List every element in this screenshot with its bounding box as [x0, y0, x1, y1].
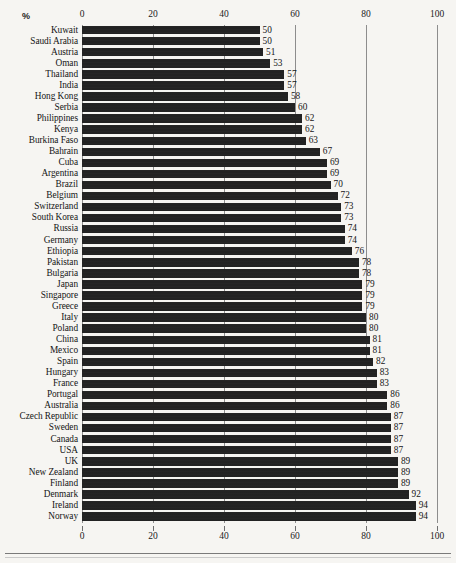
bar-category-label: New Zealand — [29, 468, 78, 477]
axis-tick-label: 20 — [148, 9, 158, 19]
bar-value-label: 78 — [362, 269, 371, 278]
bar-category-label: Thailand — [45, 70, 78, 79]
gridline-100 — [437, 25, 438, 523]
bar-row: Poland80 — [82, 323, 437, 334]
bar-row: Switzerland73 — [82, 202, 437, 213]
bar-row: Czech Republic87 — [82, 412, 437, 423]
bar-row: Russia74 — [82, 224, 437, 235]
bar-row: Ethiopia76 — [82, 246, 437, 257]
bar — [82, 203, 341, 211]
bar-value-label: 79 — [365, 302, 374, 311]
bar — [82, 148, 320, 156]
bar — [82, 258, 359, 266]
bar-value-label: 70 — [334, 180, 343, 189]
bar — [82, 48, 263, 56]
bar-value-label: 81 — [373, 335, 382, 344]
bar — [82, 291, 362, 299]
bar-value-label: 89 — [401, 457, 410, 466]
bar — [82, 225, 345, 233]
axis-tick-mark — [366, 526, 367, 531]
bar — [82, 181, 331, 189]
bar-value-label: 67 — [323, 147, 332, 156]
bar-category-label: Serbia — [55, 103, 78, 112]
bar-category-label: Singapore — [41, 291, 78, 300]
bar-value-label: 69 — [330, 169, 339, 178]
bar-category-label: South Korea — [32, 214, 78, 223]
top-axis: 020406080100 — [82, 9, 437, 21]
bar-category-label: China — [56, 335, 78, 344]
bar — [82, 214, 341, 222]
bar-row: Finland89 — [82, 478, 437, 489]
bar-row: Kenya62 — [82, 124, 437, 135]
bar-row: China81 — [82, 335, 437, 346]
bar-value-label: 76 — [355, 247, 364, 256]
bar-row: UK89 — [82, 456, 437, 467]
bar-value-label: 51 — [266, 48, 275, 57]
bar-row: Sweden87 — [82, 423, 437, 434]
bar-row: Austria51 — [82, 47, 437, 58]
plot-area: Kuwait50Saudi Arabia50Austria51Oman53Tha… — [82, 25, 437, 523]
bar-category-label: France — [53, 379, 78, 388]
bar-row: Thailand57 — [82, 69, 437, 80]
bar-row: Cuba69 — [82, 158, 437, 169]
bar-value-label: 57 — [287, 81, 296, 90]
bar-row: Serbia60 — [82, 102, 437, 113]
bar-value-label: 53 — [273, 59, 282, 68]
bar-row: Spain82 — [82, 357, 437, 368]
bar-value-label: 92 — [412, 490, 421, 499]
bar — [82, 347, 370, 355]
bar-value-label: 82 — [376, 357, 385, 366]
bar — [82, 479, 398, 487]
bar-category-label: UK — [65, 457, 78, 466]
bar-value-label: 87 — [394, 424, 403, 433]
bar — [82, 170, 327, 178]
bar-chart: % 020406080100 Kuwait50Saudi Arabia50Aus… — [0, 0, 456, 563]
bar-row: Germany74 — [82, 235, 437, 246]
bar — [82, 59, 270, 67]
bar-category-label: Cuba — [59, 158, 78, 167]
bar-category-label: Finland — [50, 479, 78, 488]
bar — [82, 302, 362, 310]
bar-category-label: USA — [60, 446, 78, 455]
bar-value-label: 74 — [348, 225, 357, 234]
bar — [82, 247, 352, 255]
bar — [82, 402, 387, 410]
footer-rule-secondary — [5, 557, 451, 558]
bar-row: Bahrain67 — [82, 147, 437, 158]
bar-category-label: Poland — [52, 324, 78, 333]
bar-row: Greece79 — [82, 301, 437, 312]
bar-category-label: Bulgaria — [46, 269, 78, 278]
axis-tick-mark — [437, 526, 438, 531]
bar-row: Brazil70 — [82, 180, 437, 191]
bar-value-label: 86 — [390, 402, 399, 411]
bar-row: Norway94 — [82, 511, 437, 522]
bar-category-label: Japan — [57, 280, 78, 289]
bar-row: Japan79 — [82, 279, 437, 290]
axis-tick-label: 40 — [219, 531, 229, 541]
bar-row: Philippines62 — [82, 113, 437, 124]
bar — [82, 490, 409, 498]
bar-category-label: Kuwait — [51, 26, 78, 35]
bar-value-label: 74 — [348, 236, 357, 245]
bar-value-label: 60 — [298, 103, 307, 112]
bar-value-label: 72 — [341, 191, 350, 200]
bar-row: Australia86 — [82, 401, 437, 412]
footer-rule — [5, 553, 451, 554]
bar-value-label: 87 — [394, 435, 403, 444]
bar — [82, 236, 345, 244]
bar-category-label: Italy — [61, 313, 78, 322]
bar — [82, 358, 373, 366]
bar-category-label: Brazil — [56, 180, 78, 189]
bar-row: Hong Kong58 — [82, 91, 437, 102]
bar-row: Oman53 — [82, 58, 437, 69]
bar-value-label: 57 — [287, 70, 296, 79]
bar — [82, 26, 260, 34]
bar-value-label: 89 — [401, 479, 410, 488]
bar-row: France83 — [82, 379, 437, 390]
bar — [82, 369, 377, 377]
bottom-axis: 020406080100 — [82, 531, 437, 543]
bar — [82, 391, 387, 399]
bar-row: Pakistan78 — [82, 257, 437, 268]
bar-row: Burkina Faso63 — [82, 136, 437, 147]
bar-category-label: Australia — [44, 402, 78, 411]
